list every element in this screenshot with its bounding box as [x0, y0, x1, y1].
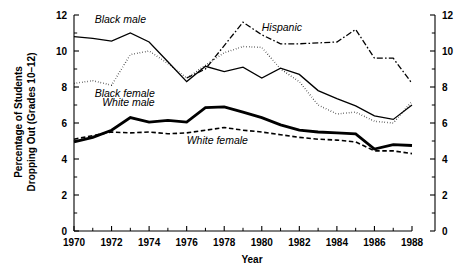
- x-tick-label: 1988: [401, 237, 424, 248]
- y-axis-title-line2: Dropping Out (Grades 10–12): [26, 53, 37, 192]
- series-label-white-female: White female: [187, 134, 248, 146]
- x-tick-label: 1978: [213, 237, 236, 248]
- x-tick-label: 1980: [251, 237, 274, 248]
- x-tick-label: 1984: [326, 237, 349, 248]
- y-axis-title-line1: Percentage of Students: [13, 66, 24, 178]
- x-tick-label: 1972: [100, 237, 123, 248]
- y-tick-label-left: 4: [61, 154, 67, 165]
- x-axis-title: Year: [241, 254, 262, 265]
- y-tick-label-left: 6: [61, 118, 67, 129]
- y-tick-label-left: 10: [56, 46, 68, 57]
- y-tick-label-right: 8: [442, 82, 448, 93]
- x-tick-label: 1976: [176, 237, 199, 248]
- x-tick-label: 1974: [138, 237, 161, 248]
- y-tick-label-left: 2: [61, 190, 67, 201]
- y-tick-label-right: 12: [442, 10, 454, 21]
- chart-container: 0246810120246810121970197219741976197819…: [0, 0, 463, 269]
- y-tick-label-right: 10: [442, 46, 454, 57]
- dropout-rate-line-chart: 0246810120246810121970197219741976197819…: [0, 0, 463, 269]
- x-tick-label: 1970: [63, 237, 86, 248]
- x-tick-label: 1982: [288, 237, 311, 248]
- y-tick-label-left: 0: [61, 226, 67, 237]
- series-label-hispanic: Hispanic: [262, 21, 303, 33]
- y-tick-label-right: 6: [442, 118, 448, 129]
- y-tick-label-right: 4: [442, 154, 448, 165]
- y-tick-label-left: 12: [56, 10, 68, 21]
- series-label-white-male: White male: [102, 96, 155, 108]
- series-label-black-male: Black male: [95, 13, 147, 25]
- y-tick-label-right: 0: [442, 226, 448, 237]
- y-tick-label-right: 2: [442, 190, 448, 201]
- y-tick-label-left: 8: [61, 82, 67, 93]
- x-tick-label: 1986: [363, 237, 386, 248]
